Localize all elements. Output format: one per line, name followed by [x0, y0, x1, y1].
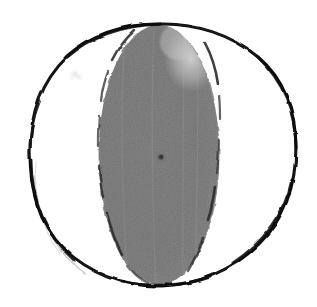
center-dot — [156, 152, 165, 161]
sketch-canvas: Hand-drawn circle with shaded vertical l… — [0, 0, 317, 307]
sketch-drawing — [0, 0, 317, 307]
